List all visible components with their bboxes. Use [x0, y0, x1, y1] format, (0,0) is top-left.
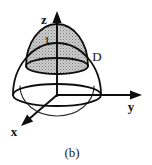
x-axis — [21, 95, 57, 126]
region-d-label: D — [92, 49, 101, 64]
z-axis-arrowhead — [52, 11, 61, 23]
y-axis-label: y — [128, 99, 135, 114]
hemisphere-diagram: z 1 y x D (b) — [0, 0, 152, 165]
z-axis-label: z — [41, 12, 47, 27]
z-axis-tick-label-1: 1 — [44, 33, 51, 48]
x-axis-label: x — [11, 124, 18, 139]
figure-container: z 1 y x D (b) — [0, 0, 152, 165]
figure-caption: (b) — [64, 145, 79, 160]
